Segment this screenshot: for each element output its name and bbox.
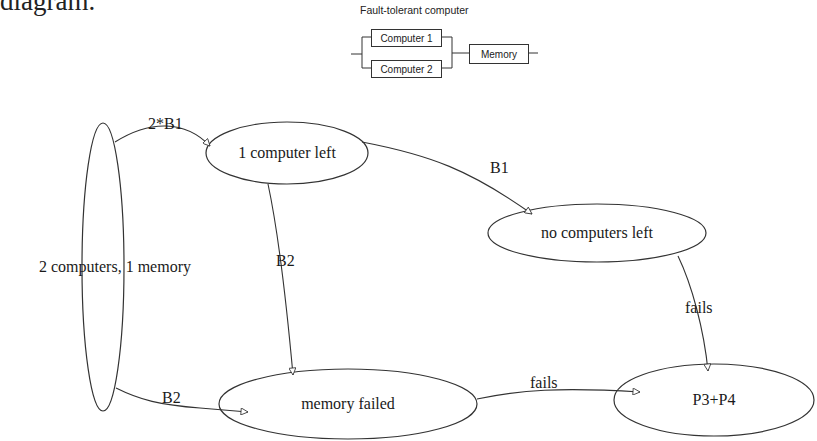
edge-label-b2-vertical: B2 [276,253,295,269]
edge-label-2b1: 2*B1 [148,116,183,132]
block-diagram-wiring [351,37,538,68]
node-label-2-computers-1-memory: 2 computers, 1 memory [39,259,191,275]
edge-b2-vertical [268,184,293,375]
node-label-p3-p4: P3+P4 [693,392,736,408]
edge-label-b2-bottom: B2 [162,390,181,406]
node-label-1-computer-left: 1 computer left [238,145,336,161]
edge-b1 [362,142,532,214]
node-label-no-computers-left: no computers left [541,225,653,241]
edge-label-fails-right: fails [685,300,713,316]
edge-label-fails-bottom: fails [530,375,558,391]
node-label-memory-failed: memory failed [301,396,395,412]
diagram-canvas [0,0,817,441]
edge-label-b1: B1 [490,160,509,176]
state-edges [115,126,708,412]
